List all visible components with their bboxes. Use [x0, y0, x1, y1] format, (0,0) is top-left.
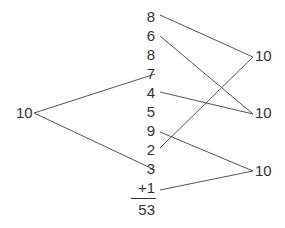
addend-10: +1	[125, 179, 155, 197]
addend-1: 8	[125, 8, 155, 26]
make-ten-diagram: 10 8 6 8 7 4 5 9 2 3 +1 53 10 10 10	[0, 0, 285, 228]
addend-4: 7	[125, 65, 155, 83]
sum-underline	[131, 198, 156, 199]
addend-7: 9	[125, 122, 155, 140]
addend-5: 4	[125, 84, 155, 102]
addend-8: 2	[125, 141, 155, 159]
addend-3: 8	[125, 46, 155, 64]
ten-group-2: 10	[255, 104, 272, 122]
addend-2: 6	[125, 27, 155, 45]
ten-group-1: 10	[255, 47, 272, 65]
sum-total: 53	[125, 201, 155, 219]
ten-group-3: 10	[255, 162, 272, 180]
left-ten: 10	[16, 104, 33, 122]
addend-9: 3	[125, 160, 155, 178]
addend-6: 5	[125, 103, 155, 121]
